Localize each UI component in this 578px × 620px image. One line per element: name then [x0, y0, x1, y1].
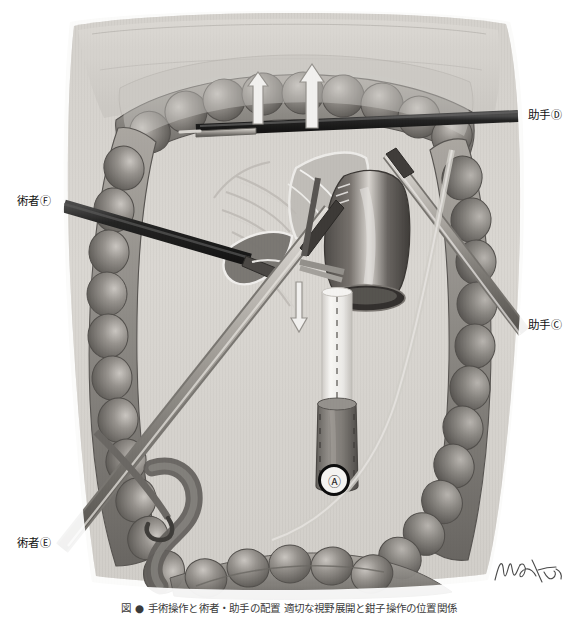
callout-assistant-d: 助手Ⓓ: [528, 110, 562, 122]
figure-caption: 図 ● 手術操作と術者・助手の配置 適切な視野展開と鉗子操作の位置関係: [0, 601, 578, 620]
callout-assistant-d-marker: Ⓓ: [551, 109, 562, 122]
callout-assistant-c: 助手Ⓒ: [528, 320, 562, 332]
callout-assistant-d-text: 助手: [528, 108, 551, 122]
callout-operator-f-text: 術者: [17, 194, 40, 208]
callout-assistant-c-marker: Ⓒ: [551, 319, 562, 332]
port-marker-a-label: Ⓐ: [328, 471, 341, 490]
callout-operator-e-text: 術者: [17, 536, 40, 550]
callout-operator-e: 術者Ⓔ: [17, 538, 51, 550]
callout-operator-f-marker: Ⓕ: [40, 195, 51, 208]
surgical-illustration: [0, 0, 578, 600]
callout-assistant-c-text: 助手: [528, 318, 551, 332]
port-marker-a: Ⓐ: [318, 464, 350, 496]
callout-operator-f: 術者Ⓕ: [17, 196, 51, 208]
artist-signature: [492, 556, 566, 586]
callout-operator-e-marker: Ⓔ: [40, 537, 51, 550]
figure-root: 術者Ⓕ 術者Ⓔ 助手Ⓓ 助手Ⓒ Ⓐ 図 ● 手術操作と術者・助手の配置 適切な視…: [0, 0, 578, 620]
